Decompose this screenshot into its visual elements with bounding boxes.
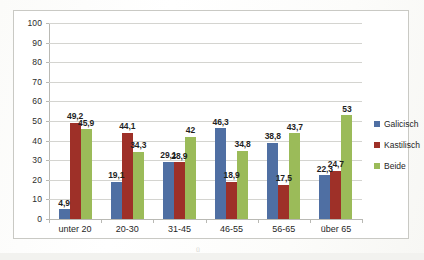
x-axis-tick-mark: [206, 219, 207, 223]
x-axis-tick-mark: [49, 219, 50, 223]
y-axis-tick-label: 90: [14, 38, 42, 48]
legend-color-swatch: [374, 142, 380, 148]
bar[interactable]: [226, 182, 237, 219]
x-axis-category-label: 20-30: [116, 224, 139, 234]
bar[interactable]: [237, 151, 248, 219]
x-axis-tick-mark: [362, 219, 363, 223]
legend-label: Galicisch: [384, 119, 418, 129]
bar[interactable]: [59, 209, 70, 219]
bar-data-label: 45,9: [78, 118, 94, 128]
bar-data-label: 42: [186, 125, 195, 135]
bar-data-label: 53: [342, 104, 351, 114]
bar-data-label: 44,1: [119, 121, 135, 131]
legend-item[interactable]: Beide: [374, 161, 420, 171]
bar[interactable]: [174, 162, 185, 219]
chart-legend: GalicischKastilischBeide: [374, 119, 420, 182]
bar-data-label: 34,3: [130, 140, 146, 150]
y-axis-tick-label: 70: [14, 77, 42, 87]
y-axis-tick-label: 20: [14, 175, 42, 185]
bar-data-label: 34,8: [235, 139, 251, 149]
chart-frame: 0102030405060708090100 4,949,245,919,144…: [13, 10, 409, 239]
scan-page-edge: [0, 253, 424, 260]
bar-group: [160, 23, 199, 219]
bar-data-label: 4,9: [58, 198, 70, 208]
x-axis-tick-mark: [101, 219, 102, 223]
bar-data-label: 18,9: [224, 170, 240, 180]
y-axis-tick-label: 60: [14, 96, 42, 106]
bar-data-label: 24,7: [328, 159, 344, 169]
legend-label: Beide: [384, 161, 406, 171]
bar-data-label: 43,7: [287, 122, 303, 132]
x-axis-category-label: 56-65: [272, 224, 295, 234]
bar[interactable]: [111, 182, 122, 219]
bar-data-label: 38,8: [265, 131, 281, 141]
scanned-page: 0102030405060708090100 4,949,245,919,144…: [0, 0, 424, 260]
x-axis-category-label: 31-45: [168, 224, 191, 234]
x-axis-tick-mark: [153, 219, 154, 223]
bar[interactable]: [163, 162, 174, 219]
x-axis-tick-mark: [258, 219, 259, 223]
y-axis-tick-label: 0: [14, 214, 42, 224]
y-axis-tick-label: 40: [14, 136, 42, 146]
legend-color-swatch: [374, 121, 380, 127]
bar[interactable]: [278, 185, 289, 219]
bar-data-label: 19,1: [108, 170, 124, 180]
y-axis-tick-label: 10: [14, 194, 42, 204]
bar-group: [316, 23, 355, 219]
x-axis-category-label: 46-55: [220, 224, 243, 234]
plot-area: 4,949,245,919,144,134,329,128,94246,318,…: [49, 23, 362, 219]
legend-item[interactable]: Galicisch: [374, 119, 420, 129]
bar-data-label: 17,5: [276, 173, 292, 183]
legend-color-swatch: [374, 163, 380, 169]
bar-data-label: 28,9: [171, 151, 187, 161]
bar[interactable]: [319, 175, 330, 219]
x-axis-tick-mark: [310, 219, 311, 223]
bar[interactable]: [70, 123, 81, 219]
bar-data-label: 46,3: [213, 117, 229, 127]
legend-label: Kastilisch: [384, 140, 420, 150]
y-axis-tick-label: 80: [14, 57, 42, 67]
y-axis-tick-label: 100: [14, 18, 42, 28]
bar[interactable]: [185, 137, 196, 219]
bar[interactable]: [81, 129, 92, 219]
y-axis-tick-label: 50: [14, 116, 42, 126]
bar[interactable]: [330, 171, 341, 219]
legend-item[interactable]: Kastilisch: [374, 140, 420, 150]
bar[interactable]: [133, 152, 144, 219]
x-axis-category-label: unter 20: [59, 224, 92, 234]
x-axis-category-label: über 65: [321, 224, 352, 234]
y-axis-tick-label: 30: [14, 155, 42, 165]
scan-artifact-mark: ü: [196, 246, 200, 253]
